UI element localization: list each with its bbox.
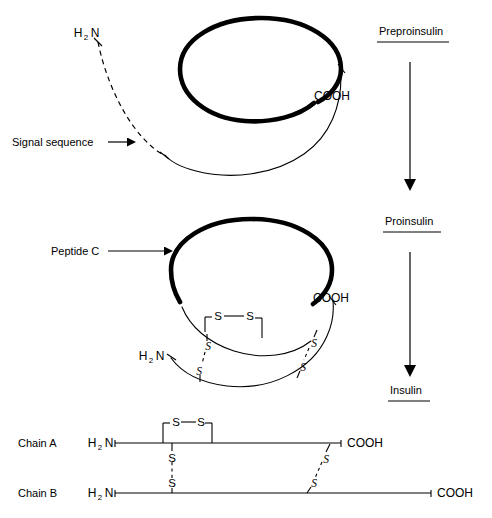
insulin-inter-right-dashed-bond xyxy=(315,462,322,478)
figure-canvas: H 2 N COOH Signal sequence Preproinsulin xyxy=(0,0,492,518)
disulfide-bridge-inter-left-insulin: S S xyxy=(168,443,176,493)
amino-subscript-glyph-proinsulin: 2 xyxy=(149,356,154,365)
chain-a-label: Chain A xyxy=(18,437,57,449)
inter-left-dashed-bond xyxy=(202,352,205,364)
stage-label-insulin: Insulin xyxy=(388,384,430,401)
stage-label-preproinsulin: Preproinsulin xyxy=(377,25,449,42)
insulin-inter-right-stub-top xyxy=(326,444,330,452)
chain-b-amino-subscript-glyph: 2 xyxy=(98,493,103,502)
amino-h-glyph: H xyxy=(74,26,83,40)
chain-b-amino-h-glyph: H xyxy=(88,486,97,500)
chain-b-amino-terminus-label: H 2 N xyxy=(88,486,114,502)
chain-a-amino-terminus-label: H 2 N xyxy=(88,436,114,452)
amino-subscript-glyph: 2 xyxy=(84,33,89,42)
chain-a-carboxyl-terminus-label: COOH xyxy=(347,436,383,450)
panel-preproinsulin: H 2 N COOH Signal sequence xyxy=(12,18,350,175)
stage-preproinsulin-text: Preproinsulin xyxy=(379,25,443,37)
inter-right-stub-top xyxy=(314,330,317,337)
inter-left-s-upper: S xyxy=(205,340,211,352)
signal-sequence-label: Signal sequence xyxy=(12,136,93,148)
disulfide-bridge-intra-a-insulin: S S xyxy=(163,416,212,443)
c-peptide-thick-arc-proinsulin xyxy=(171,219,332,304)
disulfide-s-right: S xyxy=(246,310,254,322)
inter-right-dashed-bond xyxy=(304,348,309,360)
carboxyl-terminus-label-proinsulin: COOH xyxy=(313,291,349,305)
peptide-c-label: Peptide C xyxy=(51,245,99,257)
chain-b-amino-n-glyph: N xyxy=(105,486,114,500)
amino-terminus-label-preproinsulin: H 2 N xyxy=(74,26,100,42)
chain-a-amino-h-glyph: H xyxy=(88,436,97,450)
stage-proinsulin-text: Proinsulin xyxy=(385,215,433,227)
insulin-inter-right-s-upper: S xyxy=(323,453,329,465)
disulfide-s-left: S xyxy=(214,310,222,322)
inter-right-s-upper: S xyxy=(311,337,317,349)
carboxyl-terminus-label-preproinsulin: COOH xyxy=(314,89,350,103)
chain-b-label: Chain B xyxy=(18,487,57,499)
insulin-intra-s-right: S xyxy=(197,416,205,428)
insulin-biosynthesis-figure: H 2 N COOH Signal sequence Preproinsulin xyxy=(0,0,492,518)
amino-n-glyph: N xyxy=(91,26,100,40)
signal-sequence-dashed-path xyxy=(98,42,164,155)
inter-right-s-lower: S xyxy=(300,361,306,373)
c-peptide-thick-arc-preproinsulin xyxy=(180,18,341,121)
chain-a-amino-n-glyph: N xyxy=(105,436,114,450)
inter-left-s-lower: S xyxy=(196,365,202,377)
insulin-inter-right-s-lower: S xyxy=(311,477,317,489)
amino-h-glyph-proinsulin: H xyxy=(139,349,148,363)
disulfide-bridge-inter-right-proinsulin: S S xyxy=(297,330,317,378)
chain-a-amino-subscript-glyph: 2 xyxy=(98,443,103,452)
amino-n-glyph-proinsulin: N xyxy=(156,349,165,363)
amino-terminus-label-proinsulin: H 2 N xyxy=(139,349,165,365)
panel-insulin: S S S S S S Chain A H xyxy=(18,416,473,502)
disulfide-bridge-inter-left-proinsulin: S S xyxy=(196,334,211,382)
panel-proinsulin: S S S S S S H 2 xyxy=(51,219,349,387)
insulin-inter-left-s-upper: S xyxy=(168,452,176,464)
disulfide-bridge-inter-right-insulin: S S xyxy=(307,444,330,493)
insulin-intra-s-left: S xyxy=(172,416,180,428)
disulfide-bridge-intra-a-proinsulin: S S xyxy=(205,310,262,338)
insulin-inter-left-s-lower: S xyxy=(168,477,176,489)
signal-junction-tick xyxy=(160,152,169,159)
stage-label-proinsulin: Proinsulin xyxy=(383,215,441,232)
chain-b-carboxyl-terminus-label: COOH xyxy=(437,486,473,500)
stage-insulin-text: Insulin xyxy=(390,384,422,396)
